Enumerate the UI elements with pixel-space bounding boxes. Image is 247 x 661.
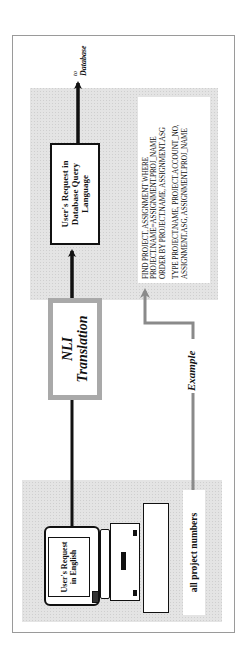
nli-translation-box: NLI Translation xyxy=(48,298,102,400)
example-arrow xyxy=(145,291,193,339)
nli-label: NLI xyxy=(60,337,75,361)
query-language-box: User's Request in Database Query Languag… xyxy=(50,143,100,245)
query-block-type: TYPE PROJECT.NAME, PROJECT.ACCOUNT_NO, A… xyxy=(172,101,189,279)
cpu-button-icon xyxy=(133,530,137,536)
cpu-button-icon xyxy=(133,590,137,596)
nli-diagram: User's Request in English all project nu… xyxy=(0,0,247,661)
monitor-screen-text: User's Request in English xyxy=(48,537,90,597)
example-label: Example xyxy=(185,349,197,393)
query-block-find: FIND PROJECT, ASSIGNMENT WHERE PROJECT.N… xyxy=(142,101,167,279)
to-database-label: to Database xyxy=(70,45,88,76)
example-input-text: all project numbers xyxy=(183,490,205,615)
disk-drive-icon xyxy=(121,552,126,570)
monitor-stand xyxy=(100,529,110,599)
monitor-power-icon xyxy=(92,591,99,603)
translation-label: Translation xyxy=(75,315,90,382)
computer-cpu-unit xyxy=(110,523,140,601)
example-query-text: FIND PROJECT, ASSIGNMENT WHERE PROJECT.N… xyxy=(138,97,210,283)
keyboard-icon xyxy=(143,503,169,613)
